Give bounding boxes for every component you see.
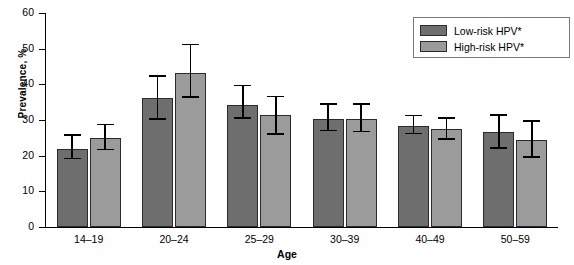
y-axis-tick-label: 60 [0, 7, 34, 17]
error-bar-cap-lower [267, 133, 284, 135]
legend: Low-risk HPV* High-risk HPV* [413, 17, 570, 58]
error-bar-cap-lower [438, 138, 455, 140]
y-axis-tick-label: 0 [0, 221, 34, 231]
y-axis-tick-label: 30 [0, 114, 34, 124]
error-bar-cap-lower [490, 147, 507, 149]
bar-low-risk [57, 149, 88, 227]
error-bar-cap-lower [64, 158, 81, 160]
error-bar-line [104, 125, 106, 150]
legend-label-high-risk: High-risk HPV* [454, 41, 524, 53]
legend-item-high-risk: High-risk HPV* [420, 39, 563, 54]
x-axis-tick-label: 30–39 [300, 233, 390, 245]
bar-group [302, 13, 387, 227]
error-bar-cap-upper [320, 103, 337, 105]
error-bar-cap-upper [438, 117, 455, 119]
x-axis-tick-label: 25–29 [214, 233, 304, 245]
bar-chart: Prevalence, % 0102030405060 14–1920–2425… [0, 0, 574, 265]
bar-high-risk [431, 129, 462, 227]
error-bar-cap-lower [353, 131, 370, 133]
bar-group [217, 13, 302, 227]
error-bar-cap-upper [523, 120, 540, 122]
y-axis-tick [39, 156, 45, 157]
legend-swatch-low-risk [420, 25, 447, 36]
y-axis-tick [39, 49, 45, 50]
error-bar-line [327, 105, 329, 131]
bar-group [131, 13, 216, 227]
bar-low-risk [227, 105, 258, 227]
error-bar-cap-upper [405, 115, 422, 117]
error-bar-cap-lower [234, 117, 251, 119]
error-bar-cap-upper [234, 85, 251, 87]
error-bar-cap-lower [523, 156, 540, 158]
error-bar-line [157, 77, 159, 120]
error-bar-line [71, 136, 73, 159]
y-axis-tick [39, 191, 45, 192]
x-axis-tick-label: 20–24 [129, 233, 219, 245]
bar-high-risk [346, 119, 377, 227]
error-bar-cap-upper [64, 134, 81, 136]
error-bar-cap-upper [182, 44, 199, 46]
y-axis-tick [39, 84, 45, 85]
error-bar-cap-lower [320, 130, 337, 132]
bar-low-risk [398, 126, 429, 227]
error-bar-line [446, 119, 448, 140]
x-axis-tick-label: 50–59 [470, 233, 560, 245]
error-bar-cap-upper [267, 96, 284, 98]
error-bar-cap-upper [353, 103, 370, 105]
error-bar-line [498, 116, 500, 149]
bar-high-risk [90, 138, 121, 227]
y-axis-tick-label: 50 [0, 43, 34, 53]
error-bar-cap-lower [149, 118, 166, 120]
legend-swatch-high-risk [420, 41, 447, 52]
error-bar-cap-upper [149, 75, 166, 77]
x-axis-tick-label: 14–19 [44, 233, 134, 245]
y-axis-tick-label: 20 [0, 150, 34, 160]
legend-item-low-risk: Low-risk HPV* [420, 23, 563, 38]
legend-label-low-risk: Low-risk HPV* [454, 25, 522, 37]
bar-group [46, 13, 131, 227]
error-bar-cap-upper [97, 124, 114, 126]
y-axis-tick [39, 13, 45, 14]
error-bar-line [190, 45, 192, 97]
y-axis-tick-label: 40 [0, 78, 34, 88]
error-bar-cap-lower [182, 96, 199, 98]
error-bar-cap-lower [405, 133, 422, 135]
error-bar-line [413, 116, 415, 134]
x-axis-title: Age [0, 248, 574, 260]
x-axis-line [45, 227, 558, 228]
error-bar-line [360, 105, 362, 133]
error-bar-line [275, 97, 277, 134]
y-axis-tick [39, 120, 45, 121]
x-axis-tick-label: 40–49 [385, 233, 475, 245]
error-bar-line [531, 122, 533, 158]
error-bar-cap-upper [490, 114, 507, 116]
y-axis-tick-label: 10 [0, 185, 34, 195]
error-bar-cap-lower [97, 149, 114, 151]
y-axis-tick [39, 227, 45, 228]
bar-low-risk [313, 119, 344, 227]
error-bar-line [242, 86, 244, 118]
